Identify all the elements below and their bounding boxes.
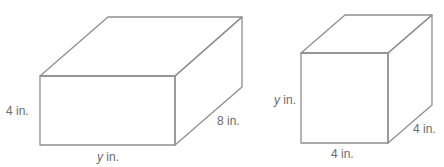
prism-depth-label: 8 in. xyxy=(217,114,240,128)
cube-front-face xyxy=(301,53,388,143)
cube-width-label: 4 in. xyxy=(331,147,354,161)
prism-front-face xyxy=(40,76,175,145)
cube-height-label: y in. xyxy=(273,93,296,107)
rectangular-prism: 4 in. y in. 8 in. xyxy=(6,17,242,164)
cube-prism: y in. 4 in. 4 in. xyxy=(273,15,436,161)
prism-height-label: 4 in. xyxy=(6,104,29,118)
prism-width-label: y in. xyxy=(96,150,119,164)
prism-top-face xyxy=(40,17,242,76)
cube-top-face xyxy=(301,15,432,53)
cube-depth-label: 4 in. xyxy=(413,122,436,136)
prisms-diagram: 4 in. y in. 8 in. y in. 4 in. 4 in. xyxy=(0,0,444,167)
